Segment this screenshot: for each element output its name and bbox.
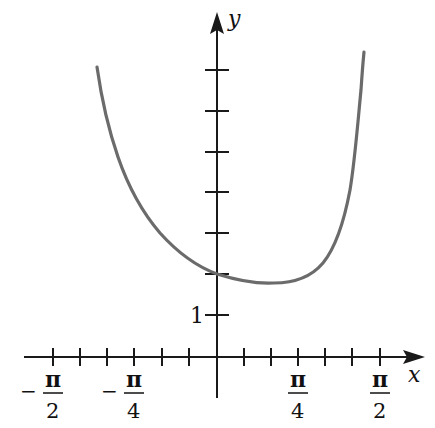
x-tick-label-pi-2: π 2 [370,366,390,423]
svg-text:π: π [372,366,388,392]
svg-text:4: 4 [127,399,140,423]
y-tick-label-1: 1 [190,303,204,328]
x-tick-label-pi-4: π 4 [288,366,308,423]
x-tick-label-neg-pi-2: − π 2 [20,366,63,423]
svg-text:2: 2 [46,399,59,423]
svg-text:π: π [126,366,142,392]
svg-text:π: π [45,366,61,392]
svg-text:4: 4 [291,399,304,423]
x-axis-label: x [408,362,421,387]
y-axis: y 1 [190,6,241,398]
chart: x − π 2 − π 4 π 4 π 2 y 1 [0,0,435,428]
x-axis: x [24,348,425,387]
svg-text:2: 2 [373,399,386,423]
x-tick-label-neg-pi-4: − π 4 [101,366,144,423]
svg-text:−: − [101,379,118,403]
function-curve [97,52,364,283]
svg-text:π: π [290,366,306,392]
y-axis-label: y [227,6,241,31]
svg-text:−: − [20,379,37,403]
